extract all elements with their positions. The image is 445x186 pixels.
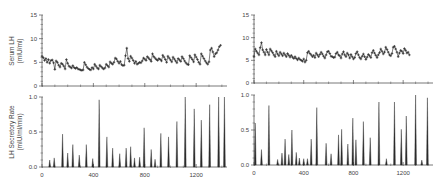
data-point-marker <box>82 69 85 72</box>
secretory-pulse <box>254 123 256 165</box>
data-point-marker <box>217 49 220 52</box>
data-point-marker <box>372 49 375 52</box>
data-point-marker <box>212 51 215 54</box>
x-tick-label: 400 <box>299 170 310 176</box>
secretory-pulse <box>85 145 87 167</box>
secretory-pulse <box>139 157 141 167</box>
secretory-pulse <box>303 159 305 165</box>
secretory-pulse <box>92 159 94 167</box>
secretory-pulse <box>218 97 220 167</box>
data-point-marker <box>381 50 384 53</box>
secretory-pulse <box>261 150 263 165</box>
ylabel-serum-lh: Serum LH <box>8 36 15 66</box>
data-point-marker <box>373 52 376 55</box>
data-point-marker <box>275 50 278 53</box>
secretory-pulse <box>150 150 152 168</box>
data-point-marker <box>196 58 199 61</box>
data-point-marker <box>264 54 267 57</box>
data-point-marker <box>387 51 390 54</box>
data-point-marker <box>51 59 54 62</box>
x-tick-label: 1200 <box>396 170 410 176</box>
chart-canvas: 051015 0.00.51.004008001200 051015 0.00.… <box>0 0 445 186</box>
data-point-marker <box>348 57 351 60</box>
data-point-marker <box>408 54 411 57</box>
data-point-marker <box>123 64 126 67</box>
data-point-marker <box>192 61 195 64</box>
data-point-marker <box>50 59 53 62</box>
secretory-pulse <box>62 134 64 167</box>
secretory-pulse <box>369 138 371 165</box>
secretory-pulse <box>78 155 80 167</box>
data-point-marker <box>384 46 387 49</box>
data-point-marker <box>200 53 203 56</box>
secretory-pulse <box>341 129 343 165</box>
ylabel-secretory-rate-units: (mIU/ml/min) <box>16 113 24 150</box>
data-point-marker <box>342 50 345 53</box>
secretory-pulse <box>355 140 357 165</box>
secretory-pulse <box>134 158 136 167</box>
y-tick-label: 0.0 <box>241 162 250 168</box>
secretory-pulse <box>415 95 417 165</box>
secretory-pulse <box>288 155 290 166</box>
data-point-marker <box>366 56 369 59</box>
secretory-pulse <box>400 129 402 165</box>
secretory-pulse <box>200 120 202 167</box>
secretory-pulse <box>176 122 178 168</box>
y-tick-label: 15 <box>30 12 37 18</box>
y-tick-label: 0.5 <box>241 127 250 133</box>
data-point-marker <box>363 55 366 58</box>
secretory-pulse <box>49 160 51 167</box>
data-point-marker <box>128 60 131 63</box>
data-point-marker <box>64 68 67 71</box>
data-point-marker <box>365 58 368 61</box>
serum-lh-trace <box>254 43 409 62</box>
data-point-marker <box>203 57 206 60</box>
secretory-pulse <box>295 152 297 165</box>
secretory-pulse <box>67 153 69 167</box>
data-point-marker <box>261 49 264 52</box>
secretory-pulse <box>184 97 186 167</box>
secretory-pulse <box>338 135 340 165</box>
secretory-pulse <box>405 116 407 165</box>
data-point-marker <box>83 61 86 64</box>
data-point-marker <box>302 58 305 61</box>
data-point-marker <box>90 69 93 72</box>
data-point-marker <box>260 41 263 44</box>
y-tick-label: 10 <box>30 36 37 42</box>
data-point-marker <box>54 68 57 71</box>
data-point-marker <box>351 55 354 58</box>
secretory-pulse <box>268 106 270 166</box>
axis-labels: Serum LH (mIU/ml) LH Secretory Rate (mIU… <box>8 36 24 159</box>
x-tick-label: 400 <box>88 172 99 178</box>
secretory-pulse <box>160 133 162 167</box>
y-tick-label: 0 <box>34 83 38 89</box>
secretory-pulse <box>106 137 108 167</box>
secretory-pulse <box>154 159 156 167</box>
secretory-pulse <box>168 137 170 167</box>
data-point-marker <box>319 53 322 56</box>
secretory-pulse <box>224 97 226 167</box>
y-tick-label: 1.0 <box>29 94 38 100</box>
secretory-pulse <box>125 148 127 167</box>
secretory-pulse <box>421 160 423 165</box>
data-point-marker <box>213 55 216 58</box>
ylabel-serum-lh-units: (mIU/ml) <box>16 39 24 64</box>
secretory-pulse <box>143 128 145 167</box>
data-point-marker <box>66 62 69 65</box>
data-point-marker <box>259 46 262 49</box>
data-point-marker <box>402 52 405 55</box>
data-point-marker <box>208 61 211 64</box>
data-point-marker <box>46 61 49 64</box>
data-point-marker <box>132 59 135 62</box>
secretory-pulse <box>277 159 279 165</box>
secretory-pulse <box>53 158 55 167</box>
data-point-marker <box>84 63 87 66</box>
data-point-marker <box>341 53 344 56</box>
ylabel-secretory-rate: LH Secretory Rate <box>8 105 16 159</box>
data-point-marker <box>266 51 269 54</box>
data-point-marker <box>394 48 397 51</box>
data-point-marker <box>379 48 382 51</box>
y-tick-label: 15 <box>242 12 249 18</box>
data-point-marker <box>81 69 84 72</box>
data-point-marker <box>195 56 198 59</box>
